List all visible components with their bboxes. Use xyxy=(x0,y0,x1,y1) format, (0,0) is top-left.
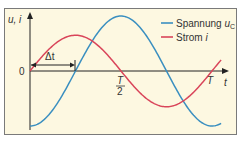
legend-label-voltage: Spannung uC xyxy=(176,18,235,30)
chart: Δt u, i 0 t T 2 T Spannung uC Strom i xyxy=(0,0,241,143)
legend-label-current: Strom i xyxy=(176,32,208,43)
tick-label-T-half-numerator: T xyxy=(117,75,124,86)
tick-label-T-half-denominator: 2 xyxy=(117,86,123,97)
origin-label: 0 xyxy=(19,66,25,77)
y-axis-label: u, i xyxy=(8,14,22,25)
tick-label-T: T xyxy=(207,75,214,86)
delta-t-label: Δt xyxy=(45,51,55,62)
